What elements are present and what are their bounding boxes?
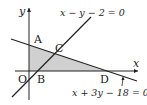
origin-label: O	[18, 73, 27, 86]
line2-equation: x + 3y − 18 = 0	[72, 87, 147, 98]
y-axis-label: y	[18, 5, 26, 18]
coordinate-diagram: y x O A B C D x − y − 2 = 0 x + 3y − 18 …	[0, 0, 147, 105]
point-d-label: D	[100, 73, 109, 86]
point-b-label: B	[37, 73, 45, 86]
point-a-label: A	[33, 33, 43, 46]
line1-equation: x − y − 2 = 0	[60, 7, 125, 18]
x-axis-label: x	[133, 57, 140, 70]
point-c-label: C	[55, 42, 63, 55]
y-axis-arrow-icon	[27, 8, 31, 12]
